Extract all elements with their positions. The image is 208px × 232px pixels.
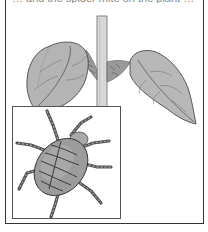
left-leaf	[27, 42, 88, 108]
right-leaf	[130, 50, 196, 124]
spider-mite	[13, 107, 120, 218]
stem-node-right	[107, 61, 130, 83]
magnified-mite-inset	[12, 106, 121, 219]
